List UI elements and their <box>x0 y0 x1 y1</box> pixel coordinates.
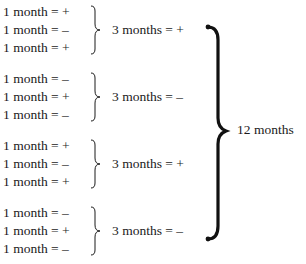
quarter-brace-icon <box>91 207 100 255</box>
annual-brace-icon <box>206 25 226 242</box>
braces-layer <box>0 0 306 264</box>
quarter-brace-icon <box>91 73 100 121</box>
quarter-brace-icon <box>91 140 100 188</box>
quarter-brace-icon <box>91 6 100 54</box>
